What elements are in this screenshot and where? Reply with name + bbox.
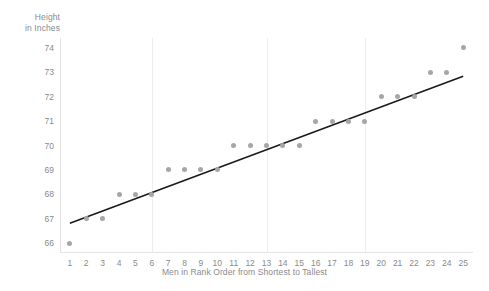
- x-axis-title: Men in Rank Order from Shortest to Talle…: [0, 267, 489, 278]
- data-point: [166, 167, 171, 172]
- y-tick-label: 71: [45, 116, 54, 126]
- gridline-vertical: [152, 38, 153, 253]
- y-tick-label: 68: [45, 189, 54, 199]
- y-tick-label: 70: [45, 141, 54, 151]
- data-point: [412, 94, 417, 99]
- y-tick-label: 74: [45, 43, 54, 53]
- y-tick-label: 72: [45, 92, 54, 102]
- data-point: [297, 143, 302, 148]
- data-point: [379, 94, 384, 99]
- data-point: [428, 70, 433, 75]
- data-point: [444, 70, 449, 75]
- data-point: [461, 45, 466, 50]
- y-axis-title: Height in Inches: [22, 12, 60, 33]
- y-axis-line: [60, 38, 61, 253]
- data-point: [362, 119, 367, 124]
- y-tick-label: 73: [45, 67, 54, 77]
- scatter-chart: Height in Inches 666768697071727374 1234…: [0, 0, 489, 291]
- plot-area: 666768697071727374 123456789101112131415…: [60, 38, 473, 253]
- data-point: [231, 143, 236, 148]
- data-point: [117, 192, 122, 197]
- gridline-vertical: [365, 38, 366, 253]
- data-point: [182, 167, 187, 172]
- data-point: [133, 192, 138, 197]
- data-point: [149, 192, 154, 197]
- data-point: [84, 216, 89, 221]
- data-point: [215, 167, 220, 172]
- data-point: [346, 119, 351, 124]
- data-point: [313, 119, 318, 124]
- y-tick-label: 69: [45, 165, 54, 175]
- data-point: [198, 167, 203, 172]
- data-point: [67, 241, 72, 246]
- data-point: [248, 143, 253, 148]
- data-point: [330, 119, 335, 124]
- data-point: [395, 94, 400, 99]
- data-point: [280, 143, 285, 148]
- data-point: [264, 143, 269, 148]
- y-tick-label: 66: [45, 238, 54, 248]
- data-point: [100, 216, 105, 221]
- y-tick-label: 67: [45, 214, 54, 224]
